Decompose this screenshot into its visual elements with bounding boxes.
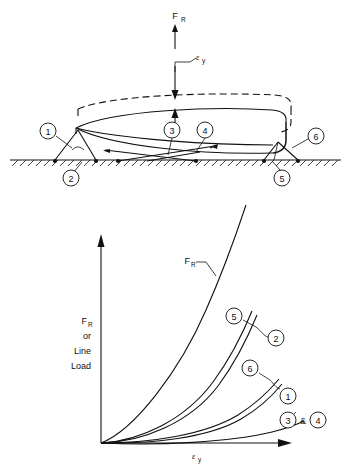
y-axis-label-line-1: F bbox=[82, 316, 88, 326]
callout-1-label: 1 bbox=[45, 127, 50, 137]
x-axis-label-epsilon: ε bbox=[192, 451, 196, 461]
curve-2 bbox=[101, 315, 257, 443]
curve-5 bbox=[101, 311, 252, 443]
curve-6 bbox=[101, 379, 279, 443]
deflection-label-epsilon: ε bbox=[196, 52, 200, 62]
callout-1: 1 bbox=[40, 123, 56, 139]
chart-callout-5: 5 bbox=[226, 308, 242, 324]
callout-6-label: 6 bbox=[313, 132, 318, 142]
deflected-hull-outline bbox=[78, 94, 291, 132]
chart-callout-4: 4 bbox=[310, 412, 326, 428]
y-axis-label-line-3: Line bbox=[74, 346, 91, 356]
load-deflection-chart: F R or Line Load ε y F R 5 bbox=[71, 205, 326, 464]
ground-line bbox=[10, 160, 341, 166]
curve-3-4 bbox=[101, 421, 304, 444]
chart-callout-6-label: 6 bbox=[247, 364, 252, 374]
callout-4-label: 4 bbox=[202, 126, 207, 136]
support-configuration-schematic: F R ε y bbox=[10, 11, 341, 186]
y-axis-label-line-4: Load bbox=[71, 361, 91, 371]
y-axis-label: F R or Line Load bbox=[71, 316, 93, 371]
chart-callout-3: 3 bbox=[280, 412, 296, 428]
chart-curves bbox=[101, 205, 304, 444]
curve-fr bbox=[101, 205, 246, 443]
chart-callout-1: 1 bbox=[280, 388, 296, 404]
callout-2: 2 bbox=[63, 170, 79, 186]
callout-3: 3 bbox=[164, 122, 180, 138]
chart-curve-fr-subscript: R bbox=[191, 261, 196, 268]
chart-callout-1-label: 1 bbox=[285, 392, 290, 402]
callout-2-label: 2 bbox=[68, 174, 73, 184]
chart-annotation-fr: F R bbox=[185, 256, 217, 276]
hull-body-outline bbox=[76, 109, 286, 154]
deflection-dimension bbox=[172, 58, 197, 132]
chart-callout-3-label: 3 bbox=[285, 416, 290, 426]
chart-curve-fr-label: F bbox=[185, 256, 191, 266]
callout-6: 6 bbox=[308, 128, 324, 144]
force-label-fr-subscript: R bbox=[181, 16, 186, 23]
chart-callout-6: 6 bbox=[242, 360, 258, 376]
callout-4: 4 bbox=[197, 122, 213, 138]
callout-5-label: 5 bbox=[279, 174, 284, 184]
chart-callout-2: 2 bbox=[268, 330, 284, 346]
y-axis-label-subscript: R bbox=[88, 321, 93, 328]
chart-callout-2-label: 2 bbox=[273, 334, 278, 344]
callout-3-label: 3 bbox=[169, 126, 174, 136]
chart-callout-5-label: 5 bbox=[231, 312, 236, 322]
deflection-label-epsilon-subscript: y bbox=[202, 57, 206, 65]
chart-callout-4-label: 4 bbox=[315, 416, 320, 426]
chart-callout-ampersand: & bbox=[300, 416, 306, 426]
force-arrow-up bbox=[172, 24, 178, 49]
technical-figure: F R ε y bbox=[0, 0, 351, 471]
callout-5: 5 bbox=[274, 170, 290, 186]
y-axis-label-line-2: or bbox=[83, 331, 91, 341]
x-axis-label-subscript: y bbox=[198, 456, 202, 464]
force-label-fr: F bbox=[172, 11, 178, 21]
curve-1 bbox=[101, 384, 282, 443]
